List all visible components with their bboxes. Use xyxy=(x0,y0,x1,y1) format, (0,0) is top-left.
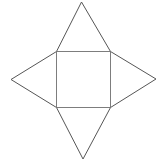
figure-canvas xyxy=(0,0,162,167)
geometric-figure xyxy=(0,0,162,167)
left-triangle xyxy=(11,52,57,108)
bottom-triangle xyxy=(57,108,111,160)
top-triangle xyxy=(57,2,111,52)
right-triangle xyxy=(111,52,157,108)
central-square xyxy=(57,52,111,108)
